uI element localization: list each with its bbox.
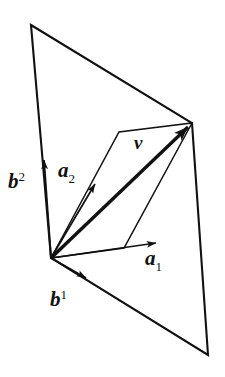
label-v-base: v — [134, 132, 142, 153]
label-b-upper1-base: b — [50, 287, 61, 311]
vector-arrow-v — [51, 127, 188, 258]
label-b-upper1: b1 — [50, 289, 67, 310]
vector-arrow-b-upper1 — [51, 258, 86, 278]
label-v: v — [134, 133, 142, 152]
vector-diagram-figure: b2 b1 a2 a1 v — [0, 0, 225, 377]
label-a-lower1: a1 — [145, 248, 162, 271]
vector-arrow-b-upper2 — [44, 160, 51, 258]
label-b-upper2-base: b — [8, 169, 19, 193]
label-a-lower2-subscript: 2 — [69, 171, 76, 186]
label-a-lower1-base: a — [145, 246, 156, 270]
label-b-upper2-superscript: 2 — [19, 169, 26, 184]
vector-diagram-canvas — [0, 0, 225, 377]
label-a-lower2: a2 — [58, 160, 75, 183]
label-a-lower2-base: a — [58, 158, 69, 182]
label-a-lower1-subscript: 1 — [156, 259, 163, 274]
label-b-upper1-superscript: 1 — [61, 287, 68, 302]
label-b-upper2: b2 — [8, 171, 25, 192]
